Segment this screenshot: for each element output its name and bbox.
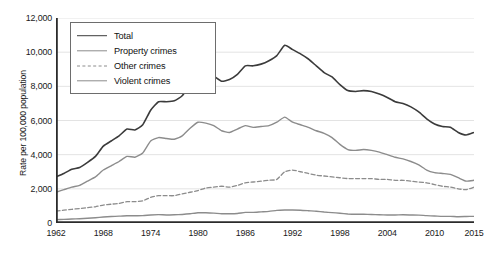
x-axis-tick-label: 1998 [330,228,349,238]
y-axis-tick-label: 0 [6,218,52,228]
x-axis-tick-label: 2004 [378,228,397,238]
series-line-violent-crimes [56,210,474,220]
y-axis-tick-label: 10,000 [6,47,52,57]
series-line-other-crimes [56,170,474,211]
legend-item-other-crimes[interactable]: Other crimes [77,58,208,73]
x-axis-tick-label: 2015 [464,228,483,238]
x-axis-tick-labels: 1962196819741980198619921998200420102015 [56,228,474,244]
y-axis-tick-label: 4,000 [6,150,52,160]
x-axis-tick-label: 1986 [236,228,255,238]
x-axis-tick-label: 1992 [283,228,302,238]
legend-item-label: Property crimes [114,46,177,56]
legend-item-label: Total [114,31,133,41]
legend-item-total[interactable]: Total [77,28,208,43]
y-axis-tick-label: 8,000 [6,81,52,91]
legend-item-property-crimes[interactable]: Property crimes [77,43,208,58]
x-axis-tick-label: 1974 [141,228,160,238]
y-axis-tick-labels: 02,0004,0006,0008,00010,00012,000 [4,0,52,254]
chart-legend: TotalProperty crimesOther crimesViolent … [70,22,216,94]
y-axis-tick-label: 12,000 [6,13,52,23]
legend-line-swatch-icon [77,76,107,86]
legend-item-label: Violent crimes [114,76,170,86]
x-axis-tick-label: 1962 [46,228,65,238]
legend-line-swatch-icon [77,61,107,71]
y-axis-tick-label: 6,000 [6,116,52,126]
x-axis-tick-label: 1968 [94,228,113,238]
y-axis-tick-label: 2,000 [6,184,52,194]
x-axis-tick-label: 1980 [188,228,207,238]
legend-item-violent-crimes[interactable]: Violent crimes [77,73,208,88]
legend-line-swatch-icon [77,31,107,41]
x-axis-tick-label: 2010 [425,228,444,238]
legend-item-label: Other crimes [114,61,165,71]
legend-line-swatch-icon [77,46,107,56]
